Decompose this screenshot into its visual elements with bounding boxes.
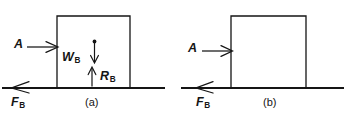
- weight-arrow-a: [91, 40, 99, 63]
- friction-arrow-b: [196, 82, 231, 93]
- label-friction-a: FB: [11, 96, 25, 109]
- caption-panel-a: (a): [85, 97, 98, 108]
- label-weight-a: WB: [62, 51, 80, 64]
- label-friction-subscript-b: B: [204, 101, 210, 110]
- label-applied-force-b: A: [188, 42, 197, 55]
- label-reaction-a: RB: [100, 70, 115, 83]
- applied-force-arrow-a: [27, 42, 58, 53]
- caption-panel-b: (b): [263, 97, 276, 108]
- reaction-arrow-a: [88, 67, 96, 87]
- free-body-diagram-figure: A WB RB FB (a) A FB (b): [0, 0, 346, 115]
- label-applied-force-a: A: [14, 38, 23, 51]
- label-friction-b: FB: [196, 96, 210, 109]
- block-outline-b: [231, 16, 306, 88]
- diagram-canvas: [0, 0, 346, 115]
- friction-arrow-a: [12, 82, 58, 93]
- label-reaction-subscript-a: B: [110, 75, 116, 84]
- label-friction-subscript-a: B: [19, 101, 25, 110]
- label-weight-subscript-a: B: [74, 56, 80, 65]
- panel-a: [2, 16, 165, 93]
- panel-b: [181, 16, 344, 93]
- applied-force-arrow-b: [202, 46, 233, 57]
